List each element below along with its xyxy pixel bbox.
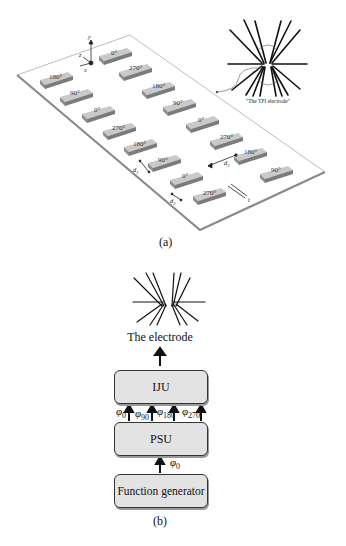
pad-label: 270° bbox=[112, 124, 126, 132]
pad-label: 90° bbox=[271, 166, 281, 174]
pad-label: 90° bbox=[173, 99, 183, 107]
arrow-up-icon bbox=[125, 405, 133, 412]
phase-label-90: φ90 bbox=[135, 407, 149, 422]
psu-label: PSU bbox=[150, 432, 172, 447]
pad-label: 90° bbox=[158, 156, 168, 164]
pad-label: 0° bbox=[182, 172, 189, 180]
pad-label: 270° bbox=[220, 133, 234, 141]
input-phase-label: φ0 bbox=[170, 456, 180, 471]
figure-a-caption: (a) bbox=[159, 235, 172, 249]
phase-label-0: φ0 bbox=[116, 405, 126, 420]
pad-label: 270° bbox=[129, 64, 143, 72]
arrow-up-icon bbox=[156, 457, 164, 464]
pad-label: 180° bbox=[244, 148, 258, 156]
iju-label: IJU bbox=[152, 380, 169, 395]
phase-label-270: φ270 bbox=[182, 405, 200, 420]
psu-block: PSU bbox=[114, 422, 208, 456]
figure-b-caption: (b) bbox=[140, 514, 180, 529]
axis-label-x: x bbox=[83, 67, 87, 73]
dim-label-t: t bbox=[248, 196, 250, 203]
pad-label: 180° bbox=[133, 140, 147, 148]
iju-block: IJU bbox=[114, 370, 208, 404]
electrode-icon bbox=[133, 273, 205, 325]
pad-label: 270° bbox=[203, 189, 217, 197]
tpi-electrode-wires bbox=[216, 45, 278, 93]
phase-label-180: φ180 bbox=[157, 405, 175, 420]
pad-label: 0° bbox=[111, 49, 118, 57]
function-generator-label: Function generator bbox=[117, 485, 204, 497]
pad-label: 180° bbox=[152, 82, 166, 90]
tpi-electrode-label: "The TPI electrode" bbox=[246, 98, 290, 104]
pad-label: 90° bbox=[70, 89, 80, 97]
pad-label: 0° bbox=[94, 106, 101, 114]
arrow-up-icon bbox=[155, 348, 165, 355]
tpi-electrode-icon bbox=[228, 20, 307, 96]
function-generator-block: Function generator bbox=[114, 474, 208, 508]
axis-label-y: y bbox=[87, 34, 91, 40]
electrode-label: The electrode bbox=[110, 330, 210, 345]
pad-label: 0° bbox=[198, 116, 205, 124]
arrow-up-icon bbox=[148, 405, 156, 412]
pad-label: 180° bbox=[49, 73, 63, 81]
